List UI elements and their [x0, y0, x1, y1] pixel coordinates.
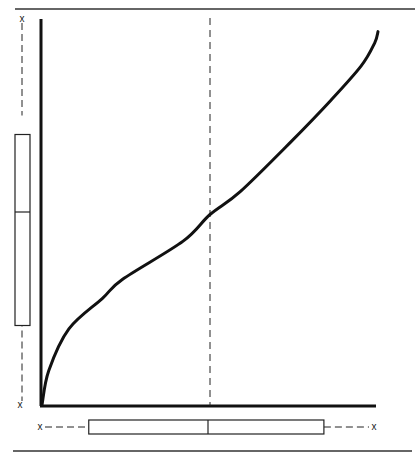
chart-canvas: x x x x [0, 0, 420, 458]
y-max-marker: x [20, 13, 25, 24]
chart-figure: x x x x [0, 0, 420, 458]
y-marginal-boxplot: x x [15, 13, 30, 410]
x-marginal-boxplot: x x [38, 420, 377, 434]
x-box-iqr [89, 420, 324, 434]
x-min-marker: x [38, 421, 43, 432]
x-max-marker: x [372, 421, 377, 432]
y-min-marker: x [18, 399, 23, 410]
y-box-iqr [15, 135, 30, 326]
